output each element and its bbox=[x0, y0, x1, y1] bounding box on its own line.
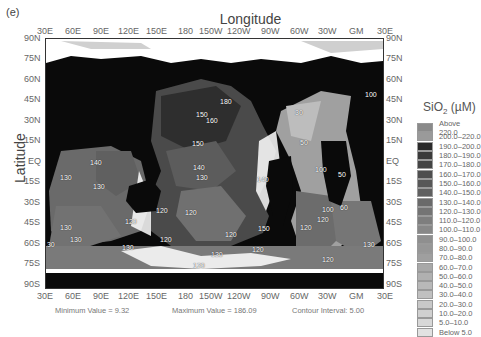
legend-swatch bbox=[417, 281, 433, 290]
y-tick: 15N bbox=[386, 135, 403, 145]
legend-swatch bbox=[417, 290, 433, 299]
contour-label: 130 bbox=[45, 241, 55, 248]
contour-label: 140 bbox=[257, 176, 269, 183]
contour-label: 130 bbox=[93, 183, 105, 190]
legend-label: 160.0–170.0 bbox=[439, 170, 481, 179]
legend-item: 110.0–120.0 bbox=[417, 216, 481, 225]
legend-item: 70.0–80.0 bbox=[417, 253, 481, 262]
y-tick: 90N bbox=[386, 33, 403, 43]
x-tick: 60W bbox=[290, 291, 309, 301]
legend-label: 90.0–100.0 bbox=[439, 235, 477, 244]
contour-label: 130 bbox=[60, 224, 72, 231]
contour-label: 120 bbox=[193, 262, 205, 269]
legend-title: SiO2 (µM) bbox=[423, 100, 476, 116]
maximum-value: Maximum Value = 186.09 bbox=[172, 306, 257, 315]
legend-item: 100.0–110.0 bbox=[417, 225, 481, 234]
legend-item: 20.0–30.0 bbox=[417, 300, 481, 309]
y-tick: 15S bbox=[386, 176, 402, 186]
y-tick: 75S bbox=[24, 258, 40, 268]
legend-label: 150.0–160.0 bbox=[439, 179, 481, 188]
y-tick: EQ bbox=[28, 156, 41, 166]
legend-label: 190.0–200.0 bbox=[439, 142, 481, 151]
contour-label: 180 bbox=[220, 98, 232, 105]
y-tick: 75S bbox=[386, 258, 402, 268]
legend-swatch bbox=[417, 198, 433, 207]
legend-item: 180.0–190.0 bbox=[417, 151, 481, 160]
legend-label: 60.0–70.0 bbox=[439, 263, 472, 272]
contour-label: 120 bbox=[160, 236, 172, 243]
y-axis-title: Latitude bbox=[12, 118, 28, 198]
legend-swatch bbox=[417, 188, 433, 197]
contour-label: 100 bbox=[315, 166, 327, 173]
contour-label: 160 bbox=[206, 117, 218, 124]
x-tick: 90E bbox=[93, 26, 109, 36]
legend-swatch bbox=[417, 207, 433, 216]
y-tick: 60N bbox=[24, 74, 41, 84]
y-tick: 45S bbox=[24, 217, 40, 227]
legend-label: 120.0–130.0 bbox=[439, 207, 481, 216]
legend-swatch bbox=[417, 123, 433, 132]
y-tick: 90N bbox=[24, 33, 41, 43]
x-tick: 90E bbox=[93, 291, 109, 301]
y-tick: 60S bbox=[24, 238, 40, 248]
contour-label: 130 bbox=[122, 244, 134, 251]
contour-label: 120 bbox=[125, 218, 137, 225]
legend-label: 110.0–120.0 bbox=[439, 216, 480, 225]
legend-label: 170.0–180.0 bbox=[439, 160, 481, 169]
contour-label: 120 bbox=[317, 216, 329, 223]
legend-label: 5.0–10.0 bbox=[439, 318, 468, 327]
y-tick: 30S bbox=[24, 197, 40, 207]
contour-label: 140 bbox=[90, 159, 102, 166]
contour-label: 120 bbox=[252, 246, 264, 253]
y-tick: 15N bbox=[24, 135, 41, 145]
legend-label: 20.0–30.0 bbox=[439, 300, 472, 309]
contour-label: 30 bbox=[295, 109, 303, 116]
contour-label: 50 bbox=[300, 139, 308, 146]
y-tick: 45N bbox=[24, 94, 41, 104]
legend-item: 120.0–130.0 bbox=[417, 207, 481, 216]
contour-label: 120 bbox=[225, 231, 237, 238]
x-tick: 150E bbox=[146, 26, 167, 36]
legend-label: 140.0–150.0 bbox=[439, 188, 481, 197]
legend-label: Below 5.0 bbox=[439, 328, 472, 337]
legend-item: 160.0–170.0 bbox=[417, 169, 481, 178]
legend-swatch bbox=[417, 272, 433, 281]
x-tick: 90W bbox=[261, 291, 280, 301]
x-tick: 150E bbox=[146, 291, 167, 301]
legend-label: 130.0–140.0 bbox=[439, 198, 481, 207]
contour-label: 140 bbox=[193, 164, 205, 171]
contour-label: 130 bbox=[196, 174, 208, 181]
x-tick: 150W bbox=[199, 291, 223, 301]
legend-item: 170.0–180.0 bbox=[417, 160, 481, 169]
x-tick: GM bbox=[349, 26, 364, 36]
legend-item: 30.0–40.0 bbox=[417, 290, 481, 299]
legend-swatch bbox=[417, 160, 433, 169]
y-tick: 90S bbox=[24, 279, 40, 289]
legend-swatch bbox=[417, 244, 433, 253]
x-tick: 120E bbox=[118, 26, 139, 36]
contour-label: 120 bbox=[300, 224, 312, 231]
contour-label: 130 bbox=[70, 236, 82, 243]
legend-swatch bbox=[417, 132, 433, 141]
contour-label: 130 bbox=[60, 174, 72, 181]
legend-label: 100.0–110.0 bbox=[439, 225, 480, 234]
legend-item: 10.0–20.0 bbox=[417, 309, 481, 318]
legend-label: 80.0–90.0 bbox=[439, 244, 472, 253]
y-tick: 30S bbox=[386, 197, 402, 207]
contour-label: 130 bbox=[363, 241, 375, 248]
legend-swatch bbox=[417, 300, 433, 309]
legend-swatch bbox=[417, 151, 433, 160]
contour-label: 100 bbox=[322, 206, 334, 213]
legend-item: 40.0–50.0 bbox=[417, 281, 481, 290]
legend-title-text: SiO bbox=[423, 100, 443, 114]
minimum-value: Minimum Value = 9.32 bbox=[55, 306, 129, 315]
x-tick: 30E bbox=[377, 291, 393, 301]
contour-interval: Contour Interval: 5.00 bbox=[292, 306, 364, 315]
legend-swatch bbox=[417, 253, 433, 262]
legend-title-unit: (µM) bbox=[447, 100, 475, 114]
x-tick: 180 bbox=[178, 291, 193, 301]
x-axis-title: Longitude bbox=[0, 11, 481, 27]
x-tick: 60E bbox=[65, 291, 81, 301]
legend-swatch bbox=[417, 170, 433, 179]
x-tick: 30W bbox=[318, 291, 337, 301]
